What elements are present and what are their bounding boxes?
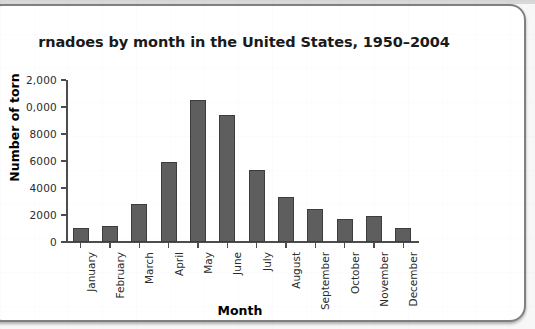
x-axis-tick-label: October [349,252,361,294]
x-axis-tick-label: September [319,252,331,310]
bar [307,209,323,242]
y-axis-tick-label: 2,000 [26,74,61,86]
x-axis-tick-label: June [231,252,243,275]
x-axis-tick-mark [109,243,111,248]
y-axis-tick: 2,000 [26,74,66,86]
bar [395,228,411,242]
x-axis-tick-mark [256,243,258,248]
bar [278,197,294,242]
y-axis-tick-mark [61,241,66,243]
y-axis-tick-label: 2000 [29,209,61,221]
y-axis-tick: 0 [50,236,66,248]
y-axis-tick-label: 6000 [29,155,61,167]
bar [219,115,235,242]
x-axis-tick-mark [285,243,287,248]
x-axis-tick-label: December [407,252,419,306]
y-axis-tick-mark [61,160,66,162]
x-axis-tick-mark [373,243,375,248]
x-axis-tick-mark [344,243,346,248]
bar [366,216,382,242]
x-axis-tick-mark [168,243,170,248]
chart-figure: rnadoes by month in the United States, 1… [0,20,518,316]
x-axis-tick-mark [315,243,317,248]
x-axis-title: Month [50,303,430,318]
x-axis-tick-label: November [378,252,390,307]
y-axis-title: Number of torn [7,48,22,208]
x-axis-tick-label: January [85,252,97,292]
y-axis-tick-mark [61,106,66,108]
y-axis-tick-label: 0 [50,236,61,248]
y-axis-tick: 6000 [29,155,66,167]
bar [102,226,118,242]
bar [337,219,353,242]
y-axis-tick: 2000 [29,209,66,221]
x-axis-tick-label: February [114,252,126,299]
y-axis-tick-label: 0,000 [26,101,61,113]
x-axis-tick-label: April [173,252,185,276]
x-axis-tick-mark [197,243,199,248]
y-axis-tick-mark [61,187,66,189]
x-axis-tick-mark [403,243,405,248]
document-frame: rnadoes by month in the United States, 1… [0,4,526,322]
bar [73,228,89,242]
x-axis-tick-label: August [290,252,302,289]
plot-area: 020004000600080000,0002,000JanuaryFebrua… [66,80,418,242]
bar [131,204,147,242]
y-axis-tick-label: 8000 [29,128,61,140]
y-axis-tick-mark [61,214,66,216]
y-axis-tick: 0,000 [26,101,66,113]
x-axis-tick-label: July [261,252,273,271]
chart-title: rnadoes by month in the United States, 1… [0,34,518,50]
x-axis-tick-mark [80,243,82,248]
x-axis-tick-label: March [143,252,155,284]
y-axis-tick: 4000 [29,182,66,194]
y-axis-tick-label: 4000 [29,182,61,194]
x-axis-tick-label: May [202,252,214,274]
x-axis-tick-mark [227,243,229,248]
x-axis-tick-mark [139,243,141,248]
y-axis-tick-mark [61,79,66,81]
y-axis-tick: 8000 [29,128,66,140]
bar [161,162,177,242]
y-axis-tick-mark [61,133,66,135]
bar [249,170,265,242]
bar [190,100,206,242]
